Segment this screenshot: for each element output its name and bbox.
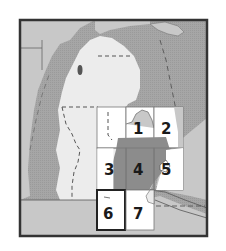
tile-label-2: 2 [161, 120, 171, 138]
tile-label-5: 5 [161, 161, 171, 179]
tile-label-1: 1 [133, 120, 143, 138]
tile-label-3: 3 [104, 161, 114, 179]
tile-label-7: 7 [133, 205, 143, 223]
tile-label-6: 6 [103, 205, 113, 223]
tile-label-4: 4 [133, 161, 143, 179]
island [78, 65, 83, 75]
index-map: 1 2 3 4 5 6 7 [0, 0, 226, 251]
